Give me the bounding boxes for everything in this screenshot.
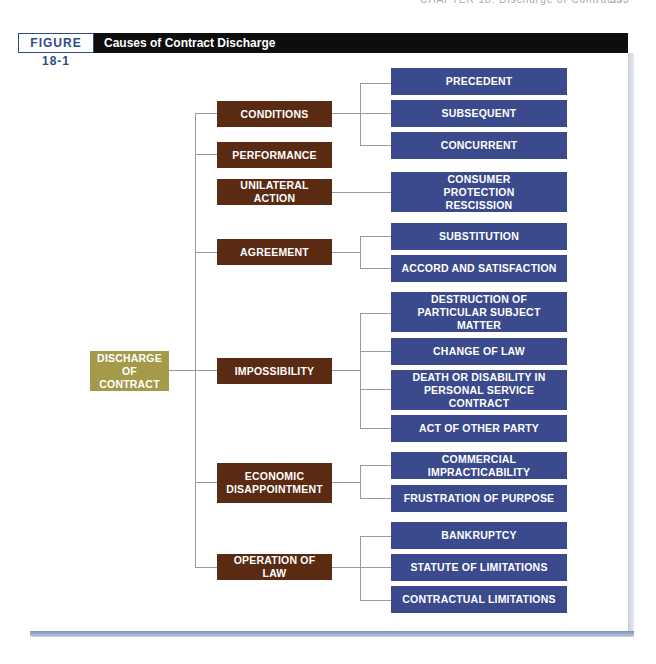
running-header-title: CHAPTER 18: Discharge of Contracts bbox=[420, 0, 623, 5]
connector-branch-agreement bbox=[195, 252, 217, 253]
leaf-consumer-protection-rescission: CONSUMER PROTECTION RESCISSION bbox=[391, 172, 567, 212]
leaf-substitution: SUBSTITUTION bbox=[391, 223, 567, 250]
connector-concurrent bbox=[360, 145, 391, 146]
category-agreement: AGREEMENT bbox=[217, 239, 332, 265]
connector-accord bbox=[360, 268, 391, 269]
connector-impossibility-bracket bbox=[360, 313, 361, 428]
leaf-subsequent: SUBSEQUENT bbox=[391, 100, 567, 127]
connector-unilateral-out bbox=[332, 192, 391, 193]
connector-operation-out bbox=[332, 567, 391, 568]
root-line-1: DISCHARGE bbox=[97, 352, 162, 365]
connector-branch-economic bbox=[195, 482, 217, 483]
connector-economic-bracket bbox=[360, 465, 361, 498]
connector-root-trunk bbox=[169, 370, 217, 371]
frame-shadow-right bbox=[628, 53, 634, 637]
connector-substitution bbox=[360, 236, 391, 237]
leaf-death-or-disability: DEATH OR DISABILITY IN PERSONAL SERVICE … bbox=[391, 370, 567, 410]
figure-title: Causes of Contract Discharge bbox=[94, 33, 628, 53]
leaf-statute-of-limitations: STATUTE OF LIMITATIONS bbox=[391, 554, 567, 581]
running-header: CHAPTER 18: Discharge of Contracts 333 bbox=[420, 0, 656, 6]
connector-act-other-party bbox=[360, 428, 391, 429]
connector-impossibility-out bbox=[332, 370, 361, 371]
connector-precedent bbox=[360, 83, 391, 84]
root-line-2: OF CONTRACT bbox=[94, 365, 165, 391]
connector-operation-bracket bbox=[360, 536, 361, 600]
leaf-destruction-of-subject-matter: DESTRUCTION OF PARTICULAR SUBJECT MATTER bbox=[391, 292, 567, 332]
leaf-bankruptcy: BANKRUPTCY bbox=[391, 522, 567, 549]
connector-trunk bbox=[195, 113, 196, 568]
connector-death bbox=[360, 389, 391, 390]
leaf-accord-and-satisfaction: ACCORD AND SATISFACTION bbox=[391, 255, 567, 282]
connector-change-of-law bbox=[360, 351, 391, 352]
leaf-frustration-of-purpose: FRUSTRATION OF PURPOSE bbox=[391, 485, 567, 512]
connector-frustration bbox=[360, 498, 391, 499]
category-performance: PERFORMANCE bbox=[217, 142, 332, 168]
connector-branch-operation bbox=[195, 567, 217, 568]
category-operation-of-law: OPERATION OF LAW bbox=[217, 554, 332, 580]
category-conditions: CONDITIONS bbox=[217, 101, 332, 127]
leaf-act-of-other-party: ACT OF OTHER PARTY bbox=[391, 415, 567, 442]
leaf-precedent: PRECEDENT bbox=[391, 68, 567, 95]
connector-branch-performance bbox=[195, 154, 217, 155]
category-economic-disappointment: ECONOMIC DISAPPOINTMENT bbox=[217, 463, 332, 503]
leaf-contractual-limitations: CONTRACTUAL LIMITATIONS bbox=[391, 586, 567, 613]
connector-agreement-bracket bbox=[360, 236, 361, 268]
category-unilateral-action: UNILATERAL ACTION bbox=[217, 179, 332, 205]
figure-label: FIGURE 18-1 bbox=[18, 33, 94, 53]
leaf-commercial-impracticability: COMMERCIAL IMPRACTICABILITY bbox=[391, 452, 567, 479]
leaf-concurrent: CONCURRENT bbox=[391, 132, 567, 159]
connector-conditions-out bbox=[332, 113, 391, 114]
category-impossibility: IMPOSSIBILITY bbox=[217, 358, 332, 384]
connector-destruction bbox=[360, 313, 391, 314]
connector-conditions-bracket bbox=[360, 83, 361, 145]
page-number: 333 bbox=[610, 0, 630, 5]
connector-contractual bbox=[360, 600, 391, 601]
leaf-change-of-law: CHANGE OF LAW bbox=[391, 338, 567, 365]
connector-commercial bbox=[360, 465, 391, 466]
connector-branch-conditions bbox=[195, 113, 217, 114]
connector-bankruptcy bbox=[360, 536, 391, 537]
connector-economic-out bbox=[332, 482, 361, 483]
frame-shadow-bottom bbox=[30, 631, 634, 637]
root-node-discharge-of-contract: DISCHARGE OF CONTRACT bbox=[90, 351, 169, 391]
connector-agreement-out bbox=[332, 252, 361, 253]
